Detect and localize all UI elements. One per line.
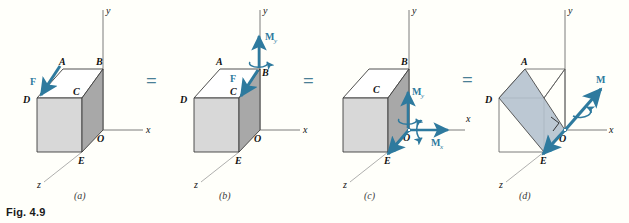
- svg-text:D: D: [22, 94, 30, 105]
- svg-text:C: C: [373, 84, 380, 95]
- panel-b-couple-My: M y: [250, 31, 279, 68]
- vector-label-F-a: F: [30, 76, 36, 87]
- axis-label-y-d: y: [567, 5, 573, 16]
- svg-text:C: C: [230, 86, 237, 97]
- svg-text:D: D: [179, 94, 187, 105]
- panel-b: y x z A B C D O E F M y: [179, 5, 308, 190]
- couple-subscript-My-b: y: [273, 37, 278, 45]
- panel-label-c: (c): [364, 190, 375, 201]
- panel-c: y x z B C O E F M y M x: [342, 5, 471, 190]
- vector-label-F-d: F: [548, 143, 554, 154]
- panel-c-couple-Mx: M x: [410, 121, 448, 152]
- panel-label-b: (b): [219, 190, 231, 201]
- panel-a: y x z A B C D O E F: [22, 5, 151, 190]
- axis-label-x-b: x: [302, 124, 308, 135]
- panel-label-d: (d): [519, 190, 531, 201]
- couple-subscript-Mx-c: x: [439, 143, 444, 151]
- axis-label-z-b: z: [193, 179, 198, 190]
- panel-a-box: [37, 69, 103, 152]
- svg-text:B: B: [261, 67, 269, 78]
- couple-subscript-My-c: y: [420, 92, 425, 100]
- figure-caption: Fig. 4.9: [6, 206, 46, 218]
- panel-d: y x z A D O E F M: [484, 5, 614, 190]
- svg-text:A: A: [215, 56, 223, 67]
- svg-text:C: C: [73, 86, 80, 97]
- svg-text:O: O: [97, 133, 104, 144]
- svg-text:E: E: [539, 155, 547, 166]
- svg-text:B: B: [95, 56, 103, 67]
- axis-label-x-a: x: [145, 124, 151, 135]
- svg-text:O: O: [254, 133, 261, 144]
- axis-label-z-d: z: [498, 179, 503, 190]
- axis-label-x-c: x: [465, 113, 471, 124]
- svg-text:D: D: [484, 94, 492, 105]
- axis-label-y-c: y: [411, 5, 417, 16]
- axis-label-z-a: z: [36, 179, 41, 190]
- panel-label-a: (a): [74, 190, 86, 201]
- axis-label-y-a: y: [105, 5, 111, 16]
- svg-text:E: E: [383, 155, 391, 166]
- axis-label-x-d: x: [608, 124, 614, 135]
- equals-operator-2: =: [303, 70, 314, 91]
- vector-label-F-b: F: [230, 73, 236, 84]
- svg-text:E: E: [77, 155, 85, 166]
- axis-label-z-c: z: [342, 179, 347, 190]
- panel-d-couple-M: M: [566, 74, 606, 129]
- svg-text:E: E: [234, 155, 242, 166]
- svg-text:A: A: [520, 56, 528, 67]
- equals-operator-3: =: [462, 69, 473, 90]
- axis-label-y-b: y: [262, 5, 268, 16]
- vector-label-F-c: F: [392, 143, 398, 154]
- couple-label-M-d: M: [596, 74, 606, 85]
- equals-operator-1: =: [146, 70, 157, 91]
- svg-text:B: B: [400, 56, 408, 67]
- svg-text:A: A: [58, 56, 66, 67]
- figure-4-9: y x z A B C D O E F = y x z: [0, 0, 629, 223]
